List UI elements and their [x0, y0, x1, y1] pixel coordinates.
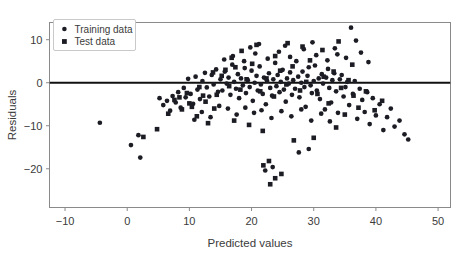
data-point [388, 106, 393, 111]
data-point [176, 90, 181, 95]
y-tick-label: −10 [24, 120, 43, 132]
data-point [241, 83, 246, 88]
data-point [333, 46, 338, 51]
data-point [303, 104, 308, 109]
data-point [177, 95, 182, 100]
data-point [237, 96, 242, 101]
data-point [311, 136, 316, 141]
data-point [279, 172, 284, 177]
data-point [366, 60, 371, 65]
data-point [316, 76, 321, 81]
data-point [306, 147, 311, 152]
data-point [181, 86, 186, 91]
data-point [203, 70, 208, 75]
data-point [308, 83, 313, 88]
data-point [195, 114, 200, 119]
data-point [172, 98, 177, 103]
data-point [288, 55, 293, 60]
x-tick-label: 40 [370, 215, 382, 227]
data-point [285, 76, 290, 81]
data-point [326, 67, 331, 72]
data-point [313, 63, 318, 68]
data-point [331, 69, 336, 74]
data-point [249, 68, 254, 73]
data-point [239, 49, 244, 54]
data-point [232, 118, 237, 123]
data-point [299, 80, 304, 85]
data-point [335, 52, 340, 57]
data-point [315, 92, 320, 97]
data-point [197, 85, 202, 90]
data-point [282, 87, 287, 92]
data-point [278, 80, 283, 85]
data-point [351, 93, 356, 98]
data-point [272, 94, 277, 99]
data-point [232, 80, 237, 85]
data-point [349, 25, 354, 30]
data-point [291, 78, 296, 83]
data-point [259, 108, 264, 113]
data-point [275, 73, 280, 78]
data-point [263, 168, 268, 173]
data-point [284, 82, 289, 87]
data-point [343, 85, 348, 90]
data-point [141, 135, 146, 140]
data-point [136, 133, 141, 138]
data-point [364, 89, 369, 94]
data-point [242, 66, 247, 71]
data-point [220, 88, 225, 93]
x-tick-label: 20 [245, 215, 257, 227]
data-point [185, 91, 190, 96]
data-point [359, 50, 364, 55]
data-point [277, 90, 282, 95]
data-point [273, 54, 278, 59]
data-point [330, 78, 335, 83]
data-point [385, 115, 390, 120]
data-point [304, 80, 309, 85]
data-point [336, 110, 341, 115]
data-point [268, 86, 273, 91]
data-point [166, 111, 171, 116]
data-point [264, 102, 269, 107]
data-point [243, 105, 248, 110]
data-point [309, 118, 314, 123]
data-point [165, 98, 170, 103]
data-point [258, 89, 263, 94]
data-point [290, 64, 295, 69]
data-point [297, 95, 302, 100]
legend-marker-circle [62, 27, 67, 32]
data-point [254, 73, 259, 78]
data-point [269, 116, 274, 121]
data-point [242, 59, 247, 64]
legend-label: Training data [75, 24, 133, 35]
data-point [346, 78, 351, 83]
data-point [226, 106, 231, 111]
data-point [370, 96, 375, 101]
data-point [271, 77, 276, 82]
data-point [273, 176, 278, 181]
data-point [314, 53, 319, 58]
x-tick-label: −10 [56, 215, 75, 227]
data-point [292, 138, 297, 143]
x-tick-label: 0 [124, 215, 130, 227]
data-point [252, 110, 257, 115]
data-point [268, 182, 273, 187]
data-point [253, 51, 258, 56]
data-point [354, 38, 359, 43]
data-point [207, 94, 212, 99]
data-point [252, 80, 257, 85]
data-point [201, 93, 206, 98]
data-point [264, 76, 269, 81]
data-point [311, 79, 316, 84]
data-point [222, 57, 227, 62]
data-point [180, 107, 185, 112]
y-tick-label: −20 [24, 163, 43, 175]
data-point [157, 96, 162, 101]
data-point [244, 77, 249, 82]
data-point [339, 73, 344, 78]
data-point [274, 84, 279, 89]
data-point [308, 58, 313, 63]
data-point [236, 72, 241, 77]
data-point [161, 103, 166, 108]
x-tick-label: 50 [432, 215, 444, 227]
